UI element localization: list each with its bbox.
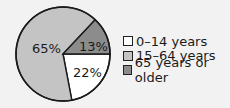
legend: 0–14 years 15–64 years 65 years or older [123,34,230,78]
swatch-0-14 [123,36,133,46]
legend-item-0-14: 0–14 years [123,34,230,49]
legend-item-65-plus: 65 years or older [123,63,230,78]
swatch-65-plus [123,65,132,75]
label-15-64: 65% [32,41,61,56]
legend-label: 0–14 years [136,34,207,49]
label-0-14: 22% [73,65,102,80]
label-65-plus: 13% [79,39,108,54]
pie-chart: 65% 13% 22% [0,0,120,108]
swatch-15-64 [123,51,133,61]
legend-label: 65 years or older [135,55,230,85]
